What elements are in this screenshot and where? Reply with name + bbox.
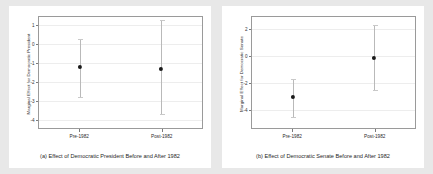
x-tick-mark [79, 129, 80, 132]
gridline [252, 83, 415, 84]
y-tick-mark [36, 120, 39, 121]
gridline [39, 82, 202, 83]
panel-a-caption: (a) Effect of Democratic President Befor… [9, 153, 211, 159]
data-point [372, 56, 376, 60]
y-tick-label: -4 [30, 117, 34, 122]
gridline [252, 56, 415, 57]
ci-cap-upper [78, 39, 83, 40]
gridline [39, 120, 202, 121]
ci-cap-lower [291, 117, 296, 118]
x-tick-mark [292, 129, 293, 132]
ci-cap-upper [160, 20, 165, 21]
y-tick-label: 0 [32, 42, 35, 47]
ci-cap-lower [373, 90, 378, 91]
y-tick-mark [249, 29, 252, 30]
panel-b: Marginal Effect for Democratic Senate 20… [222, 6, 424, 168]
x-tick-label: Pre-1982 [283, 134, 302, 139]
y-tick-mark [249, 56, 252, 57]
ci-cap-lower [78, 97, 83, 98]
ci-cap-upper [291, 79, 296, 80]
y-tick-label: -3 [30, 98, 34, 103]
panel-b-y-axis-title: Marginal Effect for Democratic Senate [236, 14, 248, 134]
data-point [159, 67, 163, 71]
data-point [291, 95, 295, 99]
y-tick-label: 0 [245, 54, 248, 59]
gridline [39, 25, 202, 26]
x-tick-mark [162, 129, 163, 132]
y-tick-label: 2 [245, 27, 248, 32]
x-tick-label: Post-1982 [151, 134, 172, 139]
data-point [78, 65, 82, 69]
figure-container: Marginal Effect for Democratic President… [0, 0, 433, 174]
y-tick-label: -1 [30, 61, 34, 66]
gridline [39, 63, 202, 64]
panel-a-y-axis-title: Marginal Effect for Democratic President [23, 14, 35, 134]
y-tick-mark [36, 101, 39, 102]
gridline [252, 110, 415, 111]
x-tick-mark [375, 129, 376, 132]
y-tick-mark [36, 82, 39, 83]
y-tick-label: -4 [243, 108, 247, 113]
y-tick-mark [249, 83, 252, 84]
y-tick-mark [36, 25, 39, 26]
y-tick-label: 1 [32, 23, 35, 28]
gridline [252, 29, 415, 30]
y-tick-label: -2 [30, 79, 34, 84]
gridline [39, 101, 202, 102]
x-tick-label: Pre-1982 [70, 134, 89, 139]
panel-a: Marginal Effect for Democratic President… [9, 6, 211, 168]
panel-b-caption: (b) Effect of Democratic Senate Before a… [222, 153, 424, 159]
y-tick-mark [249, 110, 252, 111]
panel-b-plot-area: 20-2-4 [251, 16, 416, 129]
panel-a-plot-area: 10-1-2-3-4 [38, 16, 203, 129]
gridline [39, 44, 202, 45]
y-tick-mark [36, 63, 39, 64]
y-tick-label: -2 [243, 81, 247, 86]
x-tick-label: Post-1982 [364, 134, 385, 139]
ci-cap-upper [373, 25, 378, 26]
ci-cap-lower [160, 114, 165, 115]
y-tick-mark [36, 44, 39, 45]
